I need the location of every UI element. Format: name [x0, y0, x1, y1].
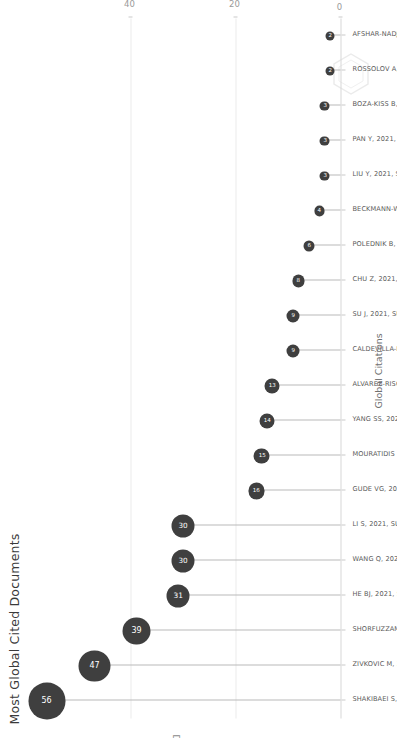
data-point-value-label: 6	[307, 243, 311, 249]
chart-title: Most Global Cited Documents	[6, 533, 21, 724]
category-tickmark	[341, 69, 345, 70]
value-axis-tick-label: 40	[124, 0, 134, 9]
data-point-bubble[interactable]: 56	[28, 682, 64, 718]
category-tickmark	[341, 104, 345, 105]
category-tickmark	[341, 629, 345, 630]
data-point-bubble[interactable]: 30	[171, 514, 194, 537]
category-axis-label: GUDE VG, 2021, SUST CITIES SOC	[352, 484, 397, 492]
data-point-value-label: 2	[328, 33, 332, 39]
category-axis-label: BECKMANN-WUBBELT A, 2021, SUST CITIES SO…	[352, 204, 397, 212]
data-point-value-label: 3	[323, 103, 327, 109]
data-point-value-label: 9	[291, 348, 295, 354]
category-tickmark	[341, 699, 345, 700]
value-axis-baseline	[340, 18, 341, 718]
category-tickmark	[341, 489, 345, 490]
data-point-value-label: 8	[296, 278, 300, 284]
gridline	[235, 18, 236, 718]
category-axis-label: ROSSOLOV A, 2022, J HUMANIST LOGIST SUPP…	[352, 64, 397, 72]
lollipop-stem	[272, 384, 340, 385]
lollipop-stem	[136, 629, 340, 630]
category-axis-label: SHAKIBAEI S, 2021, SUST CITIES SOC	[352, 694, 397, 702]
data-point-value-label: 3	[323, 173, 327, 179]
data-point-bubble[interactable]: 13	[264, 378, 279, 393]
data-point-bubble[interactable]: 30	[171, 549, 194, 572]
lollipop-stem	[46, 699, 340, 700]
category-tickmark	[341, 594, 345, 595]
category-axis-label: MOURATIDIS K, 2021, SUST CITIES SOC	[352, 449, 397, 457]
category-axis-label: YANG SS, 2021, SUST CITIES SOC	[352, 414, 397, 422]
category-tickmark	[341, 524, 345, 525]
data-point-value-label: 3	[323, 138, 327, 144]
data-point-value-label: 13	[268, 383, 275, 389]
lollipop-stem	[183, 559, 340, 560]
category-tickmark	[341, 174, 345, 175]
category-axis-label: SU J, 2021, SUST CITIES SOC	[352, 309, 397, 317]
lollipop-stem	[256, 489, 340, 490]
data-point-bubble[interactable]: 9	[286, 344, 299, 357]
data-point-value-label: 4	[317, 208, 321, 214]
data-point-value-label: 14	[263, 418, 270, 424]
category-tickmark	[341, 454, 345, 455]
data-point-bubble[interactable]: 39	[122, 617, 150, 645]
data-point-bubble[interactable]: 9	[286, 309, 299, 322]
category-tickmark	[341, 664, 345, 665]
category-axis-label: SHORFUZZAMAN M, 2021, SUST CITIES SOC	[352, 624, 397, 632]
data-point-bubble[interactable]: 6	[303, 240, 314, 251]
data-point-bubble[interactable]: 16	[248, 482, 264, 498]
y-axis-title: Global Citations	[372, 333, 383, 408]
lollipop-stem	[293, 349, 340, 350]
value-axis-tickmark	[233, 16, 237, 17]
category-tickmark	[341, 349, 345, 350]
category-tickmark	[341, 559, 345, 560]
data-point-bubble[interactable]: 3	[319, 171, 329, 181]
category-tickmark	[341, 34, 345, 35]
category-tickmark	[341, 209, 345, 210]
x-axis-title: Documents	[170, 734, 180, 738]
category-axis-label: AFSHAR-NADJAFI B, 2021, SUST CITIES SOC	[352, 29, 397, 37]
data-point-value-label: 16	[253, 488, 260, 494]
data-point-bubble[interactable]: 8	[292, 274, 304, 286]
value-axis-tickmark	[338, 16, 342, 17]
lollipop-stem	[183, 524, 340, 525]
value-axis-tick-label: 20	[229, 0, 239, 9]
chart-canvas: Most Global Cited Documents 0204056SHAKI…	[0, 0, 397, 738]
data-point-bubble[interactable]: 3	[319, 101, 329, 111]
data-point-value-label: 31	[173, 592, 182, 599]
gridline	[130, 18, 131, 718]
data-point-bubble[interactable]: 4	[314, 205, 324, 215]
category-tickmark	[341, 419, 345, 420]
data-point-bubble[interactable]: 15	[253, 448, 269, 464]
category-tickmark	[341, 279, 345, 280]
data-point-bubble[interactable]: 47	[78, 650, 110, 682]
value-axis-tickmark	[128, 16, 132, 17]
category-axis-label: LIU Y, 2021, SUST CITIES SOC	[352, 169, 397, 177]
lollipop-stem	[261, 454, 340, 455]
lollipop-stem	[178, 594, 340, 595]
category-axis-label: WANG Q, 2021, SUST CITIES SOC	[352, 554, 397, 562]
data-point-value-label: 56	[41, 697, 51, 705]
category-axis-label: HE BJ, 2021, SUST CITIES SOC	[352, 589, 397, 597]
data-point-bubble[interactable]: 2	[325, 31, 334, 40]
lollipop-stem	[267, 419, 340, 420]
data-point-bubble[interactable]: 3	[319, 136, 329, 146]
lollipop-stem	[94, 664, 340, 665]
category-axis-label: BOZA-KISS B, 2021, FRONT SUSTAIN CITIES	[352, 99, 397, 107]
category-axis-label: PAN Y, 2021, SUST CITIES SOC	[352, 134, 397, 142]
data-point-value-label: 30	[178, 522, 187, 529]
category-axis-label: POLEDNIK B, 2021, SUST CITIES SOC	[352, 239, 397, 247]
category-axis-label: LI S, 2021, SUST CITIES SOC	[352, 519, 397, 527]
data-point-value-label: 2	[328, 68, 332, 74]
data-point-value-label: 9	[291, 313, 295, 319]
data-point-bubble[interactable]: 14	[259, 413, 274, 428]
data-point-bubble[interactable]: 2	[325, 66, 334, 75]
category-axis-label: CHU Z, 2021, SUST CITIES SOC	[352, 274, 397, 282]
data-point-bubble[interactable]: 31	[166, 584, 190, 608]
rotated-plot-wrapper: Most Global Cited Documents 0204056SHAKI…	[0, 0, 397, 738]
category-tickmark	[341, 244, 345, 245]
category-tickmark	[341, 384, 345, 385]
lollipop-stem	[293, 314, 340, 315]
data-point-value-label: 47	[89, 662, 99, 670]
plot-area: 0204056SHAKIBAEI S, 2021, SUST CITIES SO…	[30, 18, 340, 718]
value-axis-tick-label: 0	[334, 4, 344, 9]
category-axis-label: ZIVKOVIC M, 2021, SUST CITIES SOC	[352, 659, 397, 667]
